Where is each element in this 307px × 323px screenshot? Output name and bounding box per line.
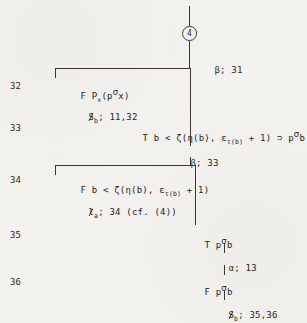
formula-32-prefix: F xyxy=(80,91,86,101)
formula-34-part-a: F b < ζ(η(b), ε xyxy=(80,185,164,195)
annotation-refs: ; 13 xyxy=(234,263,256,273)
line-number-32: 32 xyxy=(10,81,21,91)
formula-33-part-a: T b < ζ(η(b), ε xyxy=(142,133,226,143)
annotation-refs: ; 35,36 xyxy=(238,310,277,320)
formula-33-subscript: τ(b) xyxy=(227,138,243,146)
annotation-refs: ; 33 xyxy=(196,158,218,168)
branch-bar-1 xyxy=(55,68,190,69)
annotation-dollar-b-35-36: Sb; 35,36 xyxy=(206,300,278,323)
trunk-line-top xyxy=(189,6,190,26)
annotation-ell-a-34: la; 34 (cf. (4)) xyxy=(66,197,177,227)
link-line-35-to-36 xyxy=(224,243,225,253)
formula-34-part-b: + 1) xyxy=(181,185,209,195)
annotation-beta-31: β; 31 xyxy=(192,55,243,85)
formula-33-part-c: b xyxy=(299,133,305,143)
annotation-rule-symbol: S xyxy=(88,112,94,122)
link-line-below-36 xyxy=(224,290,225,300)
annotation-refs: ; 31 xyxy=(220,65,242,75)
formula-36-part-a: F p xyxy=(204,287,221,297)
formula-35-part-a: T p xyxy=(204,240,221,250)
formula-33-part-b: + 1) ⊃ p xyxy=(243,133,294,143)
annotation-rule-symbol: S xyxy=(228,310,234,320)
branch-2-connector xyxy=(190,157,191,165)
annotation-rule-symbol: l xyxy=(88,207,94,217)
paper-sheet: 4 .node-circle{left:182px;top:26px;} β; … xyxy=(0,0,307,323)
trunk-line-below-node xyxy=(189,41,190,68)
branch-2-left-stub xyxy=(55,165,56,175)
formula-32-rest: x) xyxy=(118,91,129,101)
annotation-refs: ; 11,32 xyxy=(98,112,137,122)
branch-bar-2 xyxy=(55,165,195,166)
formula-35-part-b: b xyxy=(227,240,233,250)
annotation-refs: ; 34 (cf. (4)) xyxy=(98,207,177,217)
line-number-34: 34 xyxy=(10,175,21,185)
tree-node-label: 4 xyxy=(187,29,192,38)
tree-node-circle-4: 4 xyxy=(182,26,197,41)
branch-1-left-stub xyxy=(55,68,56,78)
formula-36-part-b: b xyxy=(227,287,233,297)
annotation-beta-33: β; 33 xyxy=(168,148,219,178)
link-line-below-alpha xyxy=(224,265,225,275)
line-number-33: 33 xyxy=(10,123,21,133)
line-number-35: 35 xyxy=(10,230,21,240)
line-number-36: 36 xyxy=(10,277,21,287)
formula-32-open: (p xyxy=(101,91,112,101)
